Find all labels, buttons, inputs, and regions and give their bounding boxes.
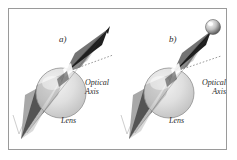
lens-sphere	[144, 68, 194, 118]
optical-axis-label-b: Optical Axis	[189, 78, 226, 96]
optical-axis-label-a: Optical Axis	[85, 78, 109, 96]
beam-tip-sphere	[206, 20, 221, 35]
lens-sphere	[36, 68, 86, 118]
beam-tip-sphere-highlight	[208, 22, 213, 26]
panel-letter-a: a)	[59, 34, 67, 44]
panel-b: b) Optical Axis Lens	[119, 9, 228, 151]
beam-tip-sharp	[106, 26, 110, 34]
optical-axis-line1-b: Optical	[189, 78, 226, 87]
optical-axis-line2-b: Axis	[189, 87, 226, 96]
optical-axis-line2-a: Axis	[85, 87, 109, 96]
panel-letter-b: b)	[169, 34, 177, 44]
figure-canvas: a) Optical Axis Lens	[0, 0, 237, 160]
figure-frame: a) Optical Axis Lens	[8, 8, 227, 150]
lens-label-b: Lens	[169, 116, 184, 125]
lens-label-a: Lens	[61, 116, 76, 125]
optical-axis-line1-a: Optical	[85, 78, 109, 87]
panel-a: a) Optical Axis Lens	[9, 9, 118, 151]
